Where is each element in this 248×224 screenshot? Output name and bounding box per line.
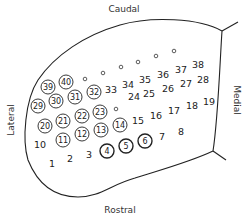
label-medial: Medial bbox=[232, 85, 242, 115]
site-number: 12 bbox=[77, 130, 87, 139]
site-20: 20 bbox=[38, 119, 52, 133]
small-circle-icon bbox=[114, 107, 118, 111]
site-number: 7 bbox=[159, 131, 165, 142]
site-number: 27 bbox=[180, 78, 192, 89]
site-31: 31 bbox=[68, 90, 82, 104]
site-number: 36 bbox=[157, 69, 169, 80]
site-22: 22 bbox=[75, 109, 89, 123]
site-10: 10 bbox=[34, 139, 46, 150]
site-number: 8 bbox=[178, 126, 184, 137]
site-19: 19 bbox=[203, 96, 215, 107]
small-circle-icon bbox=[136, 60, 140, 64]
site-16: 16 bbox=[150, 110, 162, 121]
empty-site-marker bbox=[172, 49, 176, 53]
outline-spur-top bbox=[222, 22, 238, 31]
site-4: 4 bbox=[100, 144, 114, 158]
site-number: 14 bbox=[115, 121, 125, 130]
site-32: 32 bbox=[87, 85, 101, 99]
site-number: 18 bbox=[186, 100, 198, 111]
label-rostral: Rostral bbox=[104, 205, 135, 215]
site-17: 17 bbox=[168, 105, 180, 116]
site-number: 10 bbox=[34, 139, 46, 150]
site-23: 23 bbox=[93, 105, 107, 119]
label-caudal: Caudal bbox=[108, 4, 139, 14]
site-number: 17 bbox=[168, 105, 180, 116]
site-36: 36 bbox=[157, 69, 169, 80]
site-27: 27 bbox=[180, 78, 192, 89]
empty-site-marker bbox=[136, 60, 140, 64]
brain-map-diagram: Caudal Rostral Lateral Medial 1234567810… bbox=[0, 0, 248, 224]
site-12: 12 bbox=[75, 127, 89, 141]
site-number: 37 bbox=[175, 64, 187, 75]
site-number: 40 bbox=[61, 78, 71, 87]
empty-site-marker bbox=[114, 107, 118, 111]
site-number: 20 bbox=[40, 122, 50, 131]
site-14: 14 bbox=[113, 118, 127, 132]
site-21: 21 bbox=[56, 114, 70, 128]
site-number: 11 bbox=[58, 136, 68, 145]
site-33: 33 bbox=[105, 84, 117, 95]
site-number: 16 bbox=[150, 110, 162, 121]
site-35: 35 bbox=[139, 74, 151, 85]
small-circle-icon bbox=[83, 77, 87, 81]
empty-site-marker bbox=[83, 77, 87, 81]
site-6: 6 bbox=[138, 134, 152, 148]
site-number: 32 bbox=[89, 88, 99, 97]
site-number: 22 bbox=[77, 112, 87, 121]
site-15: 15 bbox=[132, 115, 144, 126]
site-number: 19 bbox=[203, 96, 215, 107]
site-8: 8 bbox=[178, 126, 184, 137]
site-number: 38 bbox=[192, 59, 204, 70]
outline-spur-bottom bbox=[213, 151, 226, 160]
site-number: 5 bbox=[123, 142, 128, 151]
site-40: 40 bbox=[59, 75, 73, 89]
site-number: 35 bbox=[139, 74, 151, 85]
site-number: 3 bbox=[86, 149, 92, 160]
small-circle-icon bbox=[172, 49, 176, 53]
site-number: 29 bbox=[33, 102, 43, 111]
site-29: 29 bbox=[31, 99, 45, 113]
small-circle-icon bbox=[101, 71, 105, 75]
site-number: 15 bbox=[132, 115, 144, 126]
site-number: 33 bbox=[105, 84, 117, 95]
site-7: 7 bbox=[159, 131, 165, 142]
site-number: 23 bbox=[95, 108, 105, 117]
site-number: 2 bbox=[67, 153, 73, 164]
site-26: 26 bbox=[162, 83, 174, 94]
site-30: 30 bbox=[49, 94, 63, 108]
empty-site-marker bbox=[154, 54, 158, 58]
site-number: 30 bbox=[51, 97, 61, 106]
small-circle-icon bbox=[154, 54, 158, 58]
recording-sites: 1234567810111213141516171819202122232425… bbox=[31, 49, 215, 168]
site-number: 31 bbox=[70, 93, 80, 102]
site-34: 34 bbox=[122, 79, 134, 90]
small-circle-icon bbox=[119, 65, 123, 69]
site-13: 13 bbox=[94, 123, 108, 137]
site-37: 37 bbox=[175, 64, 187, 75]
site-18: 18 bbox=[186, 100, 198, 111]
site-number: 13 bbox=[96, 126, 106, 135]
site-3: 3 bbox=[86, 149, 92, 160]
site-number: 24 bbox=[128, 91, 140, 102]
site-11: 11 bbox=[56, 133, 70, 147]
site-39: 39 bbox=[41, 80, 55, 94]
empty-site-marker bbox=[119, 65, 123, 69]
site-2: 2 bbox=[67, 153, 73, 164]
site-number: 34 bbox=[122, 79, 134, 90]
site-number: 26 bbox=[162, 83, 174, 94]
site-number: 25 bbox=[143, 88, 155, 99]
site-24: 24 bbox=[128, 91, 140, 102]
label-lateral: Lateral bbox=[6, 104, 16, 135]
site-5: 5 bbox=[119, 139, 133, 153]
site-number: 6 bbox=[142, 137, 147, 146]
site-number: 21 bbox=[58, 117, 68, 126]
site-number: 1 bbox=[49, 158, 55, 169]
site-28: 28 bbox=[197, 74, 209, 85]
site-1: 1 bbox=[49, 158, 55, 169]
empty-site-marker bbox=[101, 71, 105, 75]
site-25: 25 bbox=[143, 88, 155, 99]
site-38: 38 bbox=[192, 59, 204, 70]
site-number: 4 bbox=[104, 147, 109, 156]
site-number: 28 bbox=[197, 74, 209, 85]
site-number: 39 bbox=[43, 83, 53, 92]
